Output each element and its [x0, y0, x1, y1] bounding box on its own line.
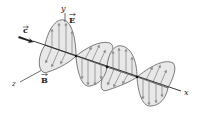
svg-text:B: B [41, 75, 48, 85]
e-field-label: E [69, 13, 76, 25]
velocity-label: c [23, 25, 29, 35]
x-axis-label: x [184, 88, 189, 97]
em-wave-diagram: y E c B z x [0, 0, 197, 113]
z-axis-line [20, 70, 42, 82]
y-axis-label: y [60, 4, 66, 13]
svg-text:E: E [69, 15, 75, 25]
z-axis-label: z [11, 80, 16, 88]
velocity-arrow-icon [18, 36, 34, 43]
b-field-label: B [41, 73, 48, 85]
